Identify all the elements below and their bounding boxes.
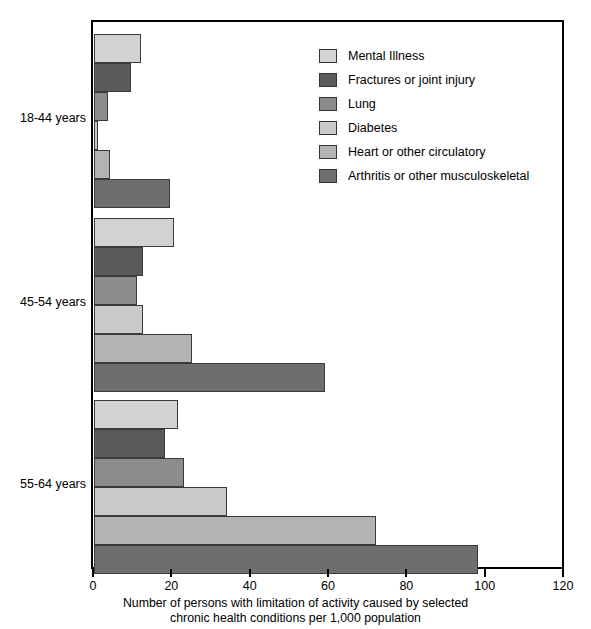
- legend-swatch-icon: [319, 169, 337, 183]
- bar: [94, 247, 143, 276]
- bar-chart: 18-44 years45-54 years55-64 years 020406…: [0, 0, 591, 629]
- legend-label: Diabetes: [348, 121, 397, 135]
- bar: [94, 458, 184, 487]
- bar: [94, 305, 143, 334]
- x-tick-label: 40: [243, 579, 257, 593]
- legend-swatch-icon: [319, 145, 337, 159]
- x-axis-title-line1: Number of persons with limitation of act…: [0, 596, 591, 611]
- x-tick: [484, 569, 486, 577]
- bar: [94, 276, 137, 305]
- legend-label: Fractures or joint injury: [348, 73, 475, 87]
- bar: [94, 400, 178, 429]
- legend-item: Mental Illness: [319, 44, 529, 68]
- bar: [94, 516, 376, 545]
- bar: [94, 334, 192, 363]
- x-tick-label: 60: [321, 579, 335, 593]
- category-label-0: 18-44 years: [0, 111, 86, 125]
- bar: [94, 218, 174, 247]
- x-tick: [170, 569, 172, 577]
- x-tick-label: 120: [553, 579, 574, 593]
- x-tick-label: 80: [399, 579, 413, 593]
- x-axis: 020406080100120: [91, 569, 564, 570]
- x-tick: [562, 569, 564, 577]
- x-tick: [249, 569, 251, 577]
- bar: [94, 34, 141, 63]
- legend-item: Lung: [319, 92, 529, 116]
- x-tick: [405, 569, 407, 577]
- legend-item: Fractures or joint injury: [319, 68, 529, 92]
- bar: [94, 429, 165, 458]
- x-tick-label: 0: [90, 579, 97, 593]
- legend-label: Lung: [348, 97, 376, 111]
- legend-item: Arthritis or other musculoskeletal: [319, 164, 529, 188]
- bar: [94, 121, 98, 150]
- category-label-2: 55-64 years: [0, 477, 86, 491]
- legend: Mental IllnessFractures or joint injuryL…: [319, 44, 529, 188]
- legend-swatch-icon: [319, 97, 337, 111]
- bar: [94, 63, 131, 92]
- x-tick: [327, 569, 329, 577]
- legend-label: Heart or other circulatory: [348, 145, 486, 159]
- legend-swatch-icon: [319, 121, 337, 135]
- bar: [94, 150, 110, 179]
- legend-item: Heart or other circulatory: [319, 140, 529, 164]
- legend-label: Arthritis or other musculoskeletal: [348, 169, 529, 183]
- bar: [94, 92, 108, 121]
- category-label-1: 45-54 years: [0, 295, 86, 309]
- legend-item: Diabetes: [319, 116, 529, 140]
- x-tick: [92, 569, 94, 577]
- x-tick-label: 100: [474, 579, 495, 593]
- x-axis-title-line2: chronic health conditions per 1,000 popu…: [0, 611, 591, 626]
- x-axis-title: Number of persons with limitation of act…: [0, 596, 591, 626]
- bar: [94, 179, 170, 208]
- legend-label: Mental Illness: [348, 49, 424, 63]
- legend-swatch-icon: [319, 49, 337, 63]
- bar: [94, 363, 325, 392]
- bar: [94, 487, 227, 516]
- x-tick-label: 20: [164, 579, 178, 593]
- legend-swatch-icon: [319, 73, 337, 87]
